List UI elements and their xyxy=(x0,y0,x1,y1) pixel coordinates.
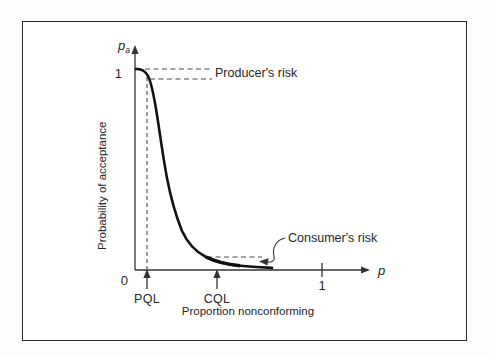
oc-curve-plot: pa p 1 0 Probability of acceptance Propo… xyxy=(0,0,490,357)
consumers-risk-arrowhead xyxy=(259,258,269,265)
y-axis-group xyxy=(131,45,138,270)
pql-label: PQL xyxy=(134,292,160,306)
y-axis-arrowhead xyxy=(131,45,138,54)
figure-root: pa p 1 0 Probability of acceptance Propo… xyxy=(0,0,490,357)
consumers-risk-label: Consumer's risk xyxy=(288,231,378,245)
oc-curve-path xyxy=(136,69,272,268)
y-axis-symbol: pa xyxy=(117,38,130,55)
pql-marker-group: PQL xyxy=(134,269,160,306)
y-tick-label-0: 0 xyxy=(121,273,128,288)
oc-curve-group xyxy=(136,69,272,268)
oc-curve-emphasis-segment xyxy=(206,257,240,266)
cql-label: CQL xyxy=(204,292,231,306)
x-tick-label-one: 1 xyxy=(318,278,325,293)
consumers-risk-leader-group xyxy=(259,238,285,265)
cql-marker-group: CQL xyxy=(204,269,231,306)
x-axis-symbol: p xyxy=(377,263,385,278)
producers-risk-band xyxy=(145,69,212,79)
y-tick-label-1: 1 xyxy=(115,66,122,81)
consumers-risk-leader-line xyxy=(266,238,285,262)
y-axis-title: Probability of acceptance xyxy=(96,122,108,251)
x-axis-title: Proportion nonconforming xyxy=(182,305,314,317)
producers-risk-label: Producer's risk xyxy=(215,66,298,80)
x-axis-arrowhead xyxy=(361,266,370,273)
